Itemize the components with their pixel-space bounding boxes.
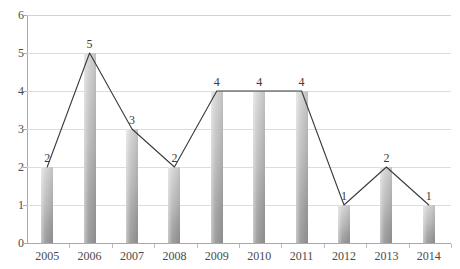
gridline-6 [27,15,451,16]
x-tick-7 [366,244,367,248]
x-label-2014: 2014 [407,250,451,263]
value-label-2013: 2 [371,152,401,164]
x-label-2009: 2009 [195,250,239,263]
y-tick-label-5: 5 [2,47,24,59]
x-tick-3 [197,244,198,248]
x-label-2010: 2010 [237,250,281,263]
bar-2014 [423,205,435,243]
x-tick-1 [112,244,113,248]
value-label-2006: 5 [75,38,105,50]
x-tick-2 [154,244,155,248]
bar-2012 [338,205,350,243]
bar-2011 [296,91,308,243]
x-label-2005: 2005 [25,250,69,263]
x-label-2006: 2006 [68,250,112,263]
x-tick-8 [409,244,410,248]
y-axis-tick-labels: 6 5 4 3 2 1 0 [0,0,24,269]
bar-2008 [168,167,180,243]
bar-2006 [84,53,96,243]
x-label-2012: 2012 [322,250,366,263]
value-label-2012: 1 [329,190,359,202]
y-tick-label-3: 3 [2,123,24,135]
value-label-2008: 2 [159,152,189,164]
bar-2005 [41,167,53,243]
value-label-2010: 4 [244,76,274,88]
x-label-2013: 2013 [364,250,408,263]
y-tick-label-2: 2 [2,161,24,173]
x-label-2007: 2007 [110,250,154,263]
value-label-2009: 4 [202,76,232,88]
x-tick-9 [451,244,452,248]
x-tick-4 [239,244,240,248]
bar-2010 [253,91,265,243]
y-tick-label-0: 0 [2,237,24,249]
value-label-2014: 1 [414,190,444,202]
x-label-2011: 2011 [280,250,324,263]
x-label-2008: 2008 [152,250,196,263]
value-label-2007: 3 [117,114,147,126]
y-tick-label-4: 4 [2,85,24,97]
y-tick-label-6: 6 [2,9,24,21]
y-tick-label-1: 1 [2,199,24,211]
x-tick-5 [281,244,282,248]
bar-2013 [380,167,392,243]
chart-container: 6 5 4 3 2 1 0 2532444121 200520062007200… [0,0,460,269]
value-label-2011: 4 [287,76,317,88]
value-label-2005: 2 [32,152,62,164]
x-tick-6 [324,244,325,248]
x-tick-0 [69,244,70,248]
bar-2009 [211,91,223,243]
bar-2007 [126,129,138,243]
chart-title-remnant [0,0,460,9]
